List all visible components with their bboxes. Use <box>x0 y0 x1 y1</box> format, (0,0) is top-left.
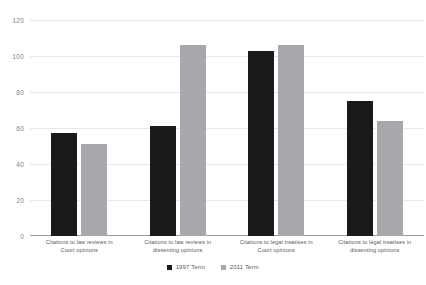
bar-3-series-1 <box>377 121 403 236</box>
category-label-0: Citations to law reviews inCourt opinion… <box>30 238 129 254</box>
category-label-line: Citations to law reviews in <box>46 239 113 245</box>
category-label-line: dissenting opinions <box>350 247 399 253</box>
legend-swatch-icon <box>221 265 226 270</box>
bar-3-series-0 <box>347 101 373 236</box>
bar-chart: 020406080100120 Citations to law reviews… <box>0 0 426 285</box>
gridline-100 <box>30 56 424 57</box>
category-label-line: Citations to law reviews in <box>144 239 211 245</box>
y-tick-label-0: 0 <box>20 233 24 240</box>
bar-2-series-0 <box>248 51 274 236</box>
legend-label: 1997 Term <box>176 264 206 270</box>
y-tick-label-80: 80 <box>16 89 24 96</box>
y-tick-label-20: 20 <box>16 197 24 204</box>
category-label-line: Court opinions <box>258 247 295 253</box>
bar-0-series-0 <box>51 133 77 236</box>
y-axis: 020406080100120 <box>0 0 30 285</box>
legend-label: 2011 Term <box>230 264 259 270</box>
chart-legend: 1997 Term2011 Term <box>0 264 426 270</box>
bar-2-series-1 <box>278 45 304 236</box>
y-tick-label-120: 120 <box>13 17 24 24</box>
y-tick-label-100: 100 <box>13 53 24 60</box>
category-label-1: Citations to law reviews indissenting op… <box>129 238 228 254</box>
category-label-line: Court opinions <box>61 247 98 253</box>
x-axis-category-labels: Citations to law reviews inCourt opinion… <box>30 238 424 262</box>
category-label-line: dissenting opinions <box>153 247 202 253</box>
bar-1-series-0 <box>150 126 176 236</box>
y-tick-label-40: 40 <box>16 161 24 168</box>
category-label-3: Citations to legal treatises indissentin… <box>326 238 425 254</box>
category-label-2: Citations to legal treatises inCourt opi… <box>227 238 326 254</box>
gridline-120 <box>30 20 424 21</box>
legend-entry-0[interactable]: 1997 Term <box>167 264 205 270</box>
y-tick-label-60: 60 <box>16 125 24 132</box>
plot-area <box>30 20 424 236</box>
category-label-line: Citations to legal treatises in <box>338 239 411 245</box>
bar-1-series-1 <box>180 45 206 236</box>
category-label-line: Citations to legal treatises in <box>240 239 313 245</box>
legend-swatch-icon <box>167 265 172 270</box>
bar-0-series-1 <box>81 144 107 236</box>
gridline-80 <box>30 92 424 93</box>
legend-entry-1[interactable]: 2011 Term <box>221 264 259 270</box>
